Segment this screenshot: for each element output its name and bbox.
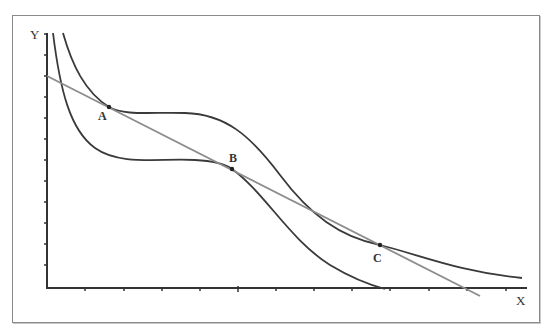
- point-c-label: C: [373, 251, 382, 265]
- y-axis: [44, 33, 47, 289]
- lower-curve: [53, 33, 385, 289]
- tangent-line: [47, 76, 480, 296]
- point-a: [107, 105, 111, 109]
- diagram-canvas: Y X A B C: [0, 0, 550, 334]
- point-c: [378, 243, 382, 247]
- point-b-label: B: [229, 151, 237, 165]
- x-axis-label: X: [516, 293, 526, 308]
- y-axis-label: Y: [30, 27, 40, 42]
- x-axis: [46, 286, 527, 292]
- upper-curve: [63, 33, 522, 278]
- point-b: [230, 167, 234, 171]
- point-a-label: A: [98, 109, 107, 123]
